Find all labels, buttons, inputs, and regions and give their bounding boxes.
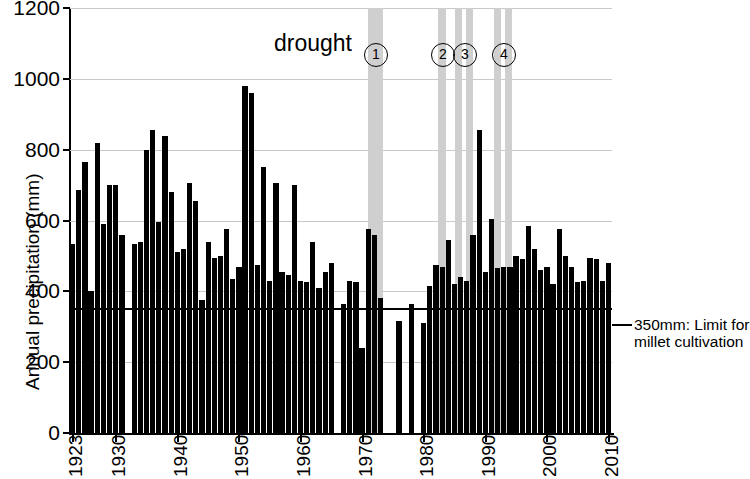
x-axis-tick-label: 1950 — [231, 435, 253, 477]
bar — [255, 265, 260, 433]
bar — [433, 265, 438, 433]
y-axis-tick — [63, 149, 70, 151]
y-axis-tick-label: 400 — [0, 280, 60, 301]
x-axis-tick-label: 1980 — [416, 435, 438, 477]
bar — [156, 222, 161, 433]
bar — [587, 258, 592, 433]
x-axis-tick-label: 1930 — [108, 435, 130, 477]
bar — [446, 240, 451, 433]
bar — [532, 249, 537, 433]
x-axis-tick-label: 1940 — [170, 435, 192, 477]
bar — [119, 235, 124, 433]
y-axis-tick-label: 0 — [0, 422, 60, 443]
y-axis-tick — [63, 7, 70, 9]
bar — [550, 284, 555, 433]
bar — [267, 281, 272, 433]
x-axis-tick-label: 1960 — [293, 435, 315, 477]
precipitation-chart: Annual precipitation (mm) 02004006008001… — [0, 0, 750, 479]
bar — [538, 270, 543, 433]
bar — [501, 267, 506, 433]
bar — [95, 143, 100, 433]
bar — [88, 291, 93, 433]
bar — [507, 267, 512, 433]
bar — [347, 281, 352, 433]
bar — [600, 281, 605, 433]
bar — [575, 282, 580, 433]
y-axis-tick — [63, 220, 70, 222]
bar — [70, 244, 75, 433]
bar — [452, 284, 457, 433]
y-axis-tick — [63, 361, 70, 363]
bar — [279, 272, 284, 433]
x-axis-tick-label: 1923 — [65, 435, 87, 477]
bar — [218, 256, 223, 433]
bar — [378, 298, 383, 433]
bar — [409, 304, 414, 433]
bar — [150, 130, 155, 433]
bar — [606, 263, 611, 433]
bar — [458, 277, 463, 433]
drought-marker-4: 4 — [492, 43, 516, 67]
drought-label: drought — [274, 30, 352, 57]
bar — [206, 242, 211, 433]
bar — [594, 259, 599, 433]
drought-marker-2: 2 — [431, 43, 455, 67]
bar — [396, 321, 401, 433]
y-axis-tick-label: 200 — [0, 351, 60, 372]
y-axis-tick-label: 1000 — [0, 68, 60, 89]
bar — [82, 162, 87, 433]
bar — [242, 86, 247, 433]
bar — [101, 224, 106, 433]
bar — [298, 281, 303, 433]
bar — [230, 279, 235, 433]
bar — [353, 282, 358, 433]
bar — [132, 244, 137, 433]
x-axis-tick-label: 1990 — [478, 435, 500, 477]
x-axis-tick-label: 2010 — [601, 435, 623, 477]
y-axis-tick — [63, 78, 70, 80]
drought-marker-1: 1 — [364, 43, 388, 67]
bar — [489, 219, 494, 433]
bar — [483, 272, 488, 433]
bar — [563, 256, 568, 433]
bar-series — [70, 8, 612, 433]
y-axis-tick-label: 800 — [0, 139, 60, 160]
bar — [249, 93, 254, 433]
threshold-line — [70, 308, 612, 310]
bar — [569, 267, 574, 433]
y-axis-tick-label: 1200 — [0, 0, 60, 18]
bar — [236, 267, 241, 433]
bar — [181, 249, 186, 433]
bar — [304, 282, 309, 433]
bar — [440, 267, 445, 433]
x-axis-tick-label: 1970 — [355, 435, 377, 477]
bar — [199, 300, 204, 433]
bar — [464, 281, 469, 433]
x-axis-tick-label: 2000 — [539, 435, 561, 477]
bar — [477, 130, 482, 433]
bar — [212, 258, 217, 433]
bar — [341, 304, 346, 433]
bar — [513, 256, 518, 433]
bar — [470, 235, 475, 433]
bar — [193, 201, 198, 433]
y-axis-tick — [63, 432, 70, 434]
bar — [224, 229, 229, 433]
bar — [162, 136, 167, 434]
bar — [421, 323, 426, 433]
bar — [520, 259, 525, 433]
bar — [76, 190, 81, 433]
bar — [495, 268, 500, 433]
bar — [557, 229, 562, 433]
plot-area — [70, 8, 612, 433]
threshold-label-line2: millet cultivation — [634, 333, 743, 350]
bar — [144, 150, 149, 433]
y-axis-tick-label: 600 — [0, 210, 60, 231]
bar — [359, 348, 364, 433]
bar — [169, 192, 174, 433]
bar — [581, 281, 586, 433]
y-axis-tick — [63, 290, 70, 292]
bar — [175, 252, 180, 433]
x-axis-line — [69, 433, 614, 435]
bar — [323, 272, 328, 433]
